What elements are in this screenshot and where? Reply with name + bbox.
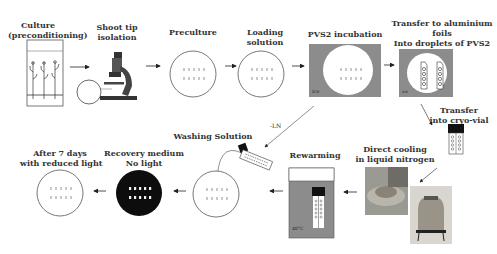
pvs2-ice-tray-icon xyxy=(309,44,381,97)
diagram-canvas: ice ice xyxy=(0,0,497,254)
recovery-dish-icon xyxy=(116,170,162,216)
foils-ice-text: ice xyxy=(402,89,409,94)
dewar-photo xyxy=(410,186,452,244)
arrow-6 xyxy=(421,104,432,125)
arrow-minus-ln xyxy=(265,106,314,147)
after7-dish-icon xyxy=(37,170,83,216)
arrow-7 xyxy=(420,168,437,182)
culture-jar-icon xyxy=(27,40,63,106)
washing-dish-icon xyxy=(193,171,239,217)
microscope-icon xyxy=(77,52,137,104)
liquid-nitrogen-photo xyxy=(365,167,408,215)
rewarming-temp-text: 40°C xyxy=(292,226,304,231)
preculture-dish-icon xyxy=(170,51,216,97)
loading-dish-icon xyxy=(238,51,284,97)
pvs2-ice-text: ice xyxy=(312,88,319,94)
cryovial-icon xyxy=(448,124,464,154)
